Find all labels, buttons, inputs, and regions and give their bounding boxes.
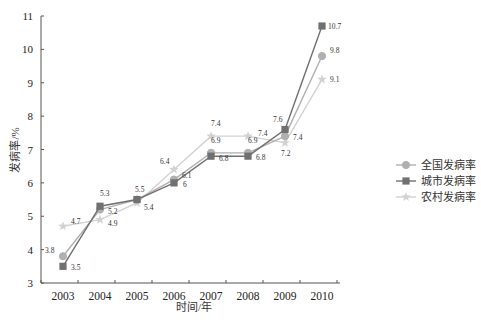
y-axis-title: 发病率/% [8,127,21,172]
y-tick-label: 10 [22,43,34,55]
data-label: 9.8 [330,46,340,55]
data-label: 6.8 [256,153,266,162]
data-label: 7.4 [211,119,221,128]
data-label: 3.8 [45,246,55,255]
data-label: 6.9 [248,136,258,145]
data-label: 4.7 [71,217,81,226]
legend: 全国发病率城市发病率农村发病率 [396,158,476,203]
data-label: 4.9 [108,219,118,228]
y-tick-label: 7 [28,144,34,156]
data-label: 5.4 [144,203,154,212]
x-tick-label: 2010 [311,290,334,302]
data-label: 10.7 [328,22,341,31]
y-tick-label: 4 [28,244,34,256]
y-tick-label: 3 [28,277,34,289]
legend-label: 城市发病率 [421,174,476,187]
data-label: 7.4 [258,129,268,138]
y-tick-label: 6 [28,177,34,189]
data-label: 6.4 [160,157,170,166]
data-label: 6.1 [182,171,192,180]
legend-item-national: 全国发病率 [396,158,476,171]
x-tick-label: 2005 [126,290,149,302]
series-lines [58,22,327,270]
data-label: 9.1 [330,75,340,84]
data-label: 6.8 [219,154,229,163]
legend-label: 全国发病率 [421,158,476,171]
data-labels: 3.85.26.16.96.97.49.83.55.35.566.86.87.6… [45,22,341,272]
data-label: 7.6 [273,115,283,124]
legend-item-rural: 农村发病率 [396,190,476,203]
y-tick-label: 8 [28,110,34,122]
data-label: 3.5 [71,263,81,272]
data-label: 5.5 [135,185,145,194]
data-label: 7.2 [281,149,291,158]
y-tick-label: 11 [22,10,33,22]
axes: 3456789101120032004200520062007200820092… [8,10,340,313]
y-tick-label: 5 [28,210,34,222]
x-axis-title: 时间/年 [176,300,212,313]
line-chart: 3456789101120032004200520062007200820092… [0,0,481,326]
data-label: 7.4 [293,133,303,142]
legend-label: 农村发病率 [421,190,476,203]
data-label: 6 [183,180,187,189]
x-tick-label: 2008 [237,290,260,302]
series-urban [59,22,325,270]
data-label: 5.2 [108,207,118,216]
x-tick-label: 2009 [274,290,297,302]
data-label: 5.3 [100,189,110,198]
y-tick-label: 9 [28,77,34,89]
x-tick-label: 2003 [52,290,75,302]
legend-item-urban: 城市发病率 [396,174,476,187]
data-label: 6.9 [211,136,221,145]
x-tick-label: 2004 [89,290,112,302]
